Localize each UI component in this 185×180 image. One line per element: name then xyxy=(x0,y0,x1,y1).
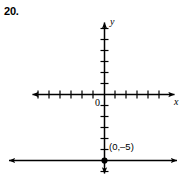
coordinate-plane-graph: x y 0 xyxy=(0,0,185,180)
y-axis-label: y xyxy=(109,16,115,27)
point-marker-0-neg5 xyxy=(101,157,107,163)
x-axis: x xyxy=(33,91,180,108)
problem-figure: 20. xyxy=(0,0,185,180)
x-axis-label: x xyxy=(173,96,179,107)
origin-label: 0 xyxy=(95,97,100,108)
point-label-0-neg5: (0,–5) xyxy=(109,141,134,152)
